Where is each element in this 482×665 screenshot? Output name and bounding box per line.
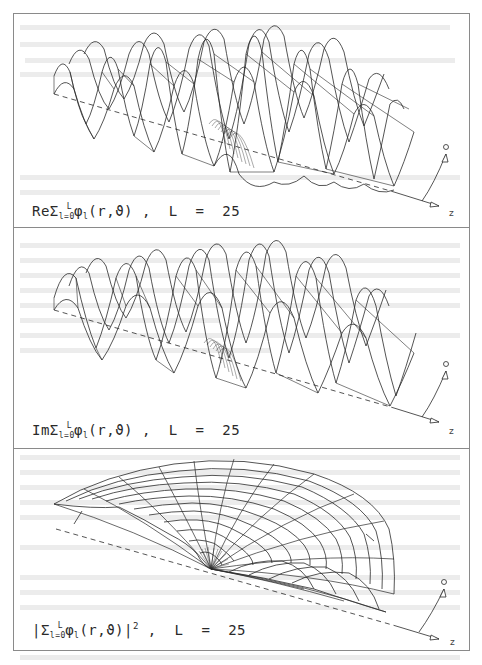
z-axis-label: z <box>449 208 454 218</box>
z-axis-label: z <box>450 637 455 647</box>
caption-args: (r,ϑ) <box>88 422 133 438</box>
sum-upper-limit: L <box>58 621 63 630</box>
caption-suffix: , L = 25 <box>133 203 240 219</box>
caption-real-part: ReΣl=0Lφl(r,ϑ) , L = 25 <box>32 202 240 221</box>
caption-prefix: |Σ <box>32 622 50 638</box>
panel-real-part: z ReΣl=0Lφl(r,ϑ) , L = 25 <box>14 14 469 228</box>
imaginary-part-surface-plot <box>14 228 469 449</box>
caption-term: φ <box>74 203 83 219</box>
caption-term: φ <box>65 622 74 638</box>
sum-lower-limit: l=0 <box>50 631 66 640</box>
panel-imaginary-part: z ImΣl=0Lφl(r,ϑ) , L = 25 <box>14 228 469 449</box>
baseline-dashed <box>56 529 396 626</box>
panel-modulus-squared: z |Σl=0Lφl(r,ϑ)|2 , L = 25 <box>14 449 469 650</box>
caption-imaginary-part: ImΣl=0Lφl(r,ϑ) , L = 25 <box>32 421 240 440</box>
z-axis-label: z <box>449 426 454 436</box>
caption-args: (r,ϑ)| <box>79 622 133 638</box>
caption-suffix: , L = 25 <box>139 622 246 638</box>
sum-lower-limit: l=0 <box>59 431 75 440</box>
sum-lower-limit: l=0 <box>59 212 75 221</box>
figure-frame: z ReΣl=0Lφl(r,ϑ) , L = 25 <box>13 13 470 651</box>
caption-prefix: ReΣ <box>32 203 59 219</box>
sum-upper-limit: L <box>67 421 72 430</box>
modulus-squared-surface-plot <box>14 449 469 650</box>
real-part-surface-plot <box>14 14 469 228</box>
caption-suffix: , L = 25 <box>133 422 240 438</box>
caption-modulus-squared: |Σl=0Lφl(r,ϑ)|2 , L = 25 <box>32 621 246 640</box>
sum-upper-limit: L <box>67 202 72 211</box>
caption-prefix: ImΣ <box>32 422 59 438</box>
caption-args: (r,ϑ) <box>88 203 133 219</box>
caption-term: φ <box>74 422 83 438</box>
baseline-dashed <box>54 94 394 192</box>
